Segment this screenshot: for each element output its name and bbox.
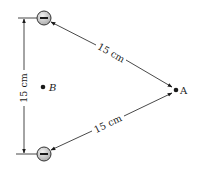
point-A-dot-icon — [174, 88, 179, 93]
point-B-dot-icon — [41, 85, 46, 90]
charge-bottom-minus-icon — [37, 147, 51, 161]
diagram-canvas: 15 cm 15 cm 15 cm A — [0, 0, 198, 177]
label-top-to-bottom: 15 cm — [18, 73, 29, 102]
label-bottom-to-A: 15 cm — [92, 112, 123, 135]
dimension-top-to-bottom: 15 cm — [16, 18, 37, 154]
triangle-charge-diagram: 15 cm 15 cm 15 cm A — [0, 0, 198, 177]
point-B-label: B — [48, 82, 56, 93]
point-A-label: A — [179, 85, 188, 96]
dimension-bottom-to-A: 15 cm — [51, 93, 172, 150]
charge-top-minus-icon — [37, 11, 51, 25]
dimension-top-to-A: 15 cm — [51, 22, 172, 87]
label-top-to-A: 15 cm — [96, 41, 127, 65]
point-A: A — [174, 85, 188, 96]
point-B: B — [41, 82, 57, 93]
